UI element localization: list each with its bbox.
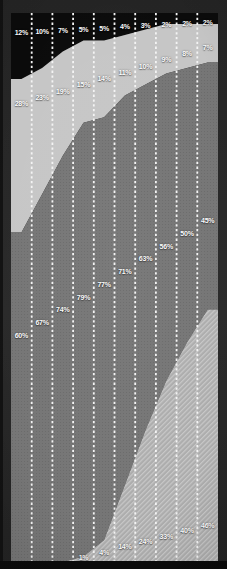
label-lightgray-col1: 28%	[15, 100, 28, 107]
bottom-border	[0, 561, 227, 569]
label-hatch-col7: 24%	[139, 538, 152, 545]
label-lightgray-col3: 19%	[56, 87, 69, 94]
label-darkgray-col5: 77%	[97, 280, 110, 287]
label-black-col1: 12%	[15, 29, 28, 36]
label-darkgray-col1: 60%	[15, 332, 28, 339]
chart-canvas: 12%10%7%5%5%4%3%2%2%2%28%23%19%15%14%11%…	[0, 0, 227, 569]
label-black-col8: 2%	[161, 21, 171, 28]
label-darkgray-col4: 79%	[77, 293, 90, 300]
band-labels-layer: 12%10%7%5%5%4%3%2%2%2%28%23%19%15%14%11%…	[11, 13, 218, 562]
label-lightgray-col8: 9%	[161, 56, 171, 63]
label-hatch-col6: 14%	[118, 543, 131, 550]
label-lightgray-col9: 8%	[182, 50, 192, 57]
label-darkgray-col6: 71%	[118, 268, 131, 275]
label-darkgray-col2: 67%	[35, 319, 48, 326]
label-black-col10: 2%	[203, 19, 213, 26]
label-black-col2: 10%	[35, 27, 48, 34]
label-black-col4: 5%	[79, 25, 89, 32]
label-darkgray-col7: 63%	[139, 255, 152, 262]
label-black-col3: 7%	[58, 26, 68, 33]
label-lightgray-col7: 10%	[139, 62, 152, 69]
label-darkgray-col10: 45%	[201, 217, 214, 224]
label-darkgray-col8: 56%	[160, 242, 173, 249]
label-darkgray-col9: 50%	[180, 229, 193, 236]
label-black-col5: 5%	[99, 24, 109, 31]
label-lightgray-col2: 23%	[35, 93, 48, 100]
label-hatch-col8: 33%	[160, 532, 173, 539]
left-border	[0, 0, 3, 569]
label-lightgray-col10: 7%	[203, 44, 213, 51]
stacked-area-chart: 12%10%7%5%5%4%3%2%2%2%28%23%19%15%14%11%…	[11, 13, 218, 562]
label-black-col9: 2%	[182, 20, 192, 27]
label-black-col6: 4%	[120, 23, 130, 30]
label-hatch-col9: 40%	[180, 527, 193, 534]
label-lightgray-col6: 11%	[118, 68, 131, 75]
label-hatch-col5: 4%	[99, 548, 109, 555]
label-lightgray-col4: 15%	[77, 81, 90, 88]
label-darkgray-col3: 74%	[56, 306, 69, 313]
label-black-col7: 3%	[141, 22, 151, 29]
label-lightgray-col5: 14%	[97, 75, 110, 82]
label-hatch-col4: 1%	[79, 554, 89, 561]
label-hatch-col10: 46%	[201, 522, 214, 529]
